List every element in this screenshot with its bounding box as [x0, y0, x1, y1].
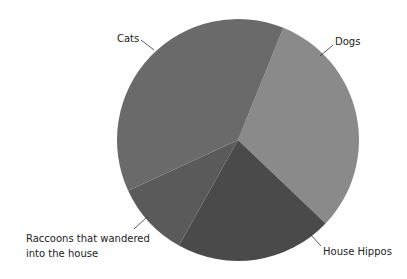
pie-slices — [117, 19, 359, 261]
label-raccoons-line1: Raccoons that wandered — [26, 233, 150, 244]
leader-line-raccoons — [134, 217, 147, 229]
label-house-hippos: House Hippos — [323, 246, 392, 257]
label-dogs: Dogs — [335, 36, 360, 47]
label-cats: Cats — [117, 33, 139, 44]
leader-line-cats — [141, 40, 154, 50]
leader-line-dogs — [320, 45, 333, 56]
pie-chart: Cats Dogs House Hippos Raccoons that wan… — [0, 0, 407, 279]
leader-line-hippos — [310, 234, 321, 246]
label-raccoons-line2: into the house — [26, 248, 98, 259]
